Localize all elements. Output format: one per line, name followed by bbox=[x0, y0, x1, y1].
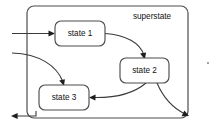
state-node-state1[interactable]: state 1 bbox=[55, 21, 105, 46]
superstate-label: superstate bbox=[133, 12, 172, 21]
state-label: state 3 bbox=[52, 93, 77, 102]
speck-mark bbox=[207, 62, 209, 64]
state-node-state3[interactable]: state 3 bbox=[39, 85, 89, 110]
state-label: state 1 bbox=[68, 29, 93, 38]
state-node-state2[interactable]: state 2 bbox=[120, 58, 169, 83]
state-machine-diagram: superstate bbox=[0, 0, 220, 128]
statechart-canvas: superstate bbox=[0, 0, 220, 128]
state-label: state 2 bbox=[132, 66, 157, 75]
arrowhead-icon bbox=[11, 113, 18, 119]
